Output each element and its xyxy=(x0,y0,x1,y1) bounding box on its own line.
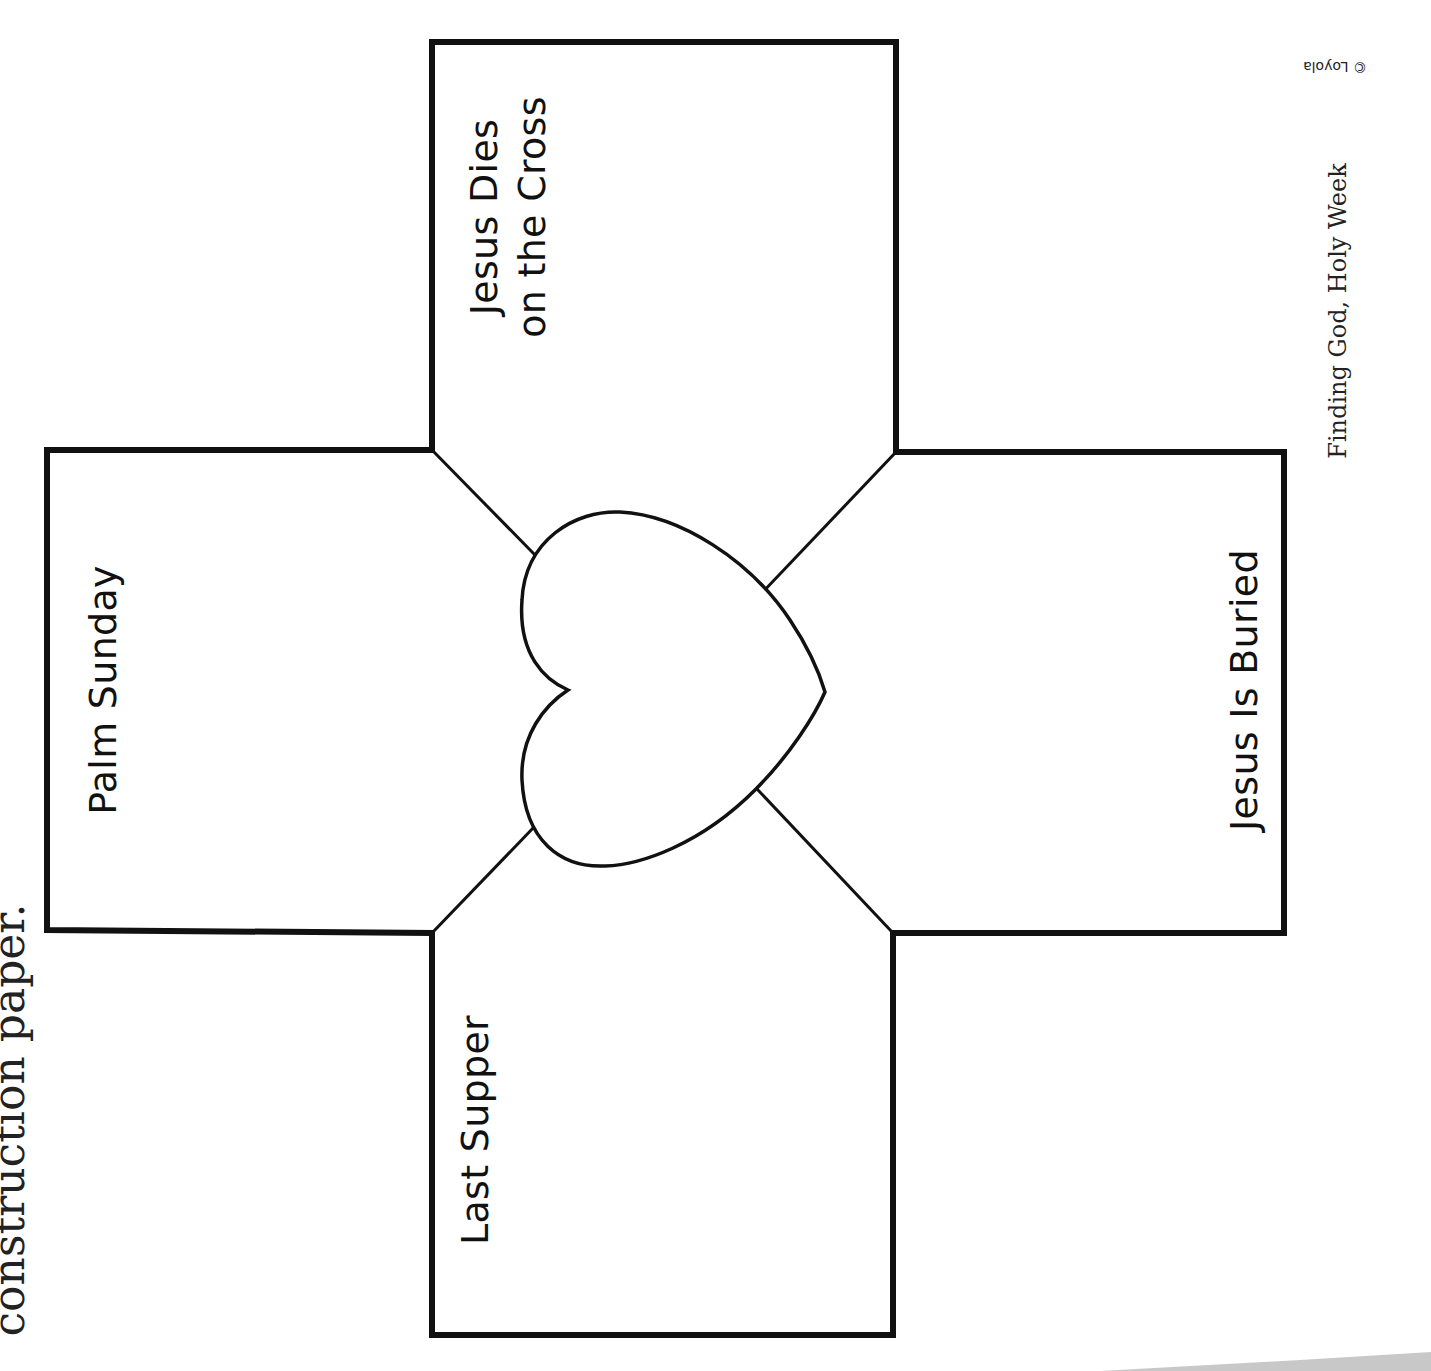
footer-title: Finding God, Holy Week xyxy=(1324,163,1352,458)
panel-label-left-text: Palm Sunday xyxy=(80,565,128,815)
panel-label-left: Palm Sunday xyxy=(80,565,128,815)
panel-label-bottom-text: Last Supper xyxy=(452,1015,500,1245)
page-shadow xyxy=(1100,1352,1431,1371)
copyright-notice: © Loyola xyxy=(1303,59,1367,75)
cross-diagram xyxy=(0,0,1431,1371)
panel-label-bottom: Last Supper xyxy=(452,1015,500,1245)
instruction-text: construction paper. xyxy=(0,903,34,1336)
worksheet-page: construction paper. Jesus Dies on the Cr… xyxy=(0,0,1431,1371)
panel-label-top-line-2: on the Cross xyxy=(508,96,556,338)
panel-label-right: Jesus Is Buried xyxy=(1221,549,1269,831)
panel-label-top: Jesus Dies on the Cross xyxy=(461,96,556,338)
panel-label-right-text: Jesus Is Buried xyxy=(1221,549,1269,831)
panel-label-top-line-1: Jesus Dies xyxy=(461,96,509,338)
